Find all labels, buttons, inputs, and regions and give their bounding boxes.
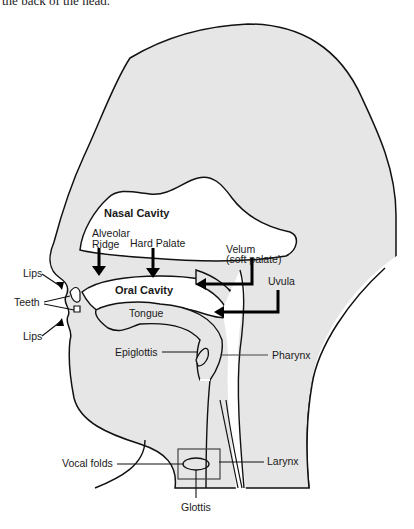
label-vocal-folds: Vocal folds [62, 458, 113, 469]
label-soft-palate: (soft palate) [226, 254, 281, 265]
label-oral-cavity: Oral Cavity [115, 285, 173, 296]
label-alveolar-ridge-line2: Ridge [92, 239, 119, 250]
label-lips-lower: Lips [23, 331, 42, 342]
label-larynx: Larynx [267, 456, 299, 467]
label-uvula: Uvula [268, 276, 295, 287]
label-lips-upper: Lips [23, 268, 42, 279]
vocal-tract-diagram [0, 0, 414, 529]
label-nasal-cavity: Nasal Cavity [104, 208, 169, 219]
label-hard-palate: Hard Palate [130, 238, 185, 249]
label-glottis: Glottis [181, 502, 211, 513]
label-tongue: Tongue [129, 308, 163, 319]
label-teeth: Teeth [14, 297, 40, 308]
label-epiglottis: Epiglottis [115, 347, 158, 358]
label-pharynx: Pharynx [272, 350, 311, 361]
